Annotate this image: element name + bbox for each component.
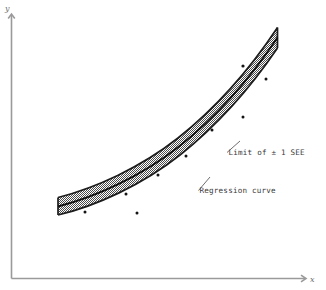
limit-annotation-label: Limit of ± 1 SEE xyxy=(229,148,306,157)
x-axis-label: x xyxy=(310,275,315,284)
data-point xyxy=(84,211,87,214)
data-point xyxy=(265,78,268,81)
data-point xyxy=(211,129,214,132)
data-point xyxy=(157,174,160,177)
data-point xyxy=(241,64,244,67)
data-point xyxy=(242,116,245,119)
regression-annotation-label: Regression curve xyxy=(200,186,277,195)
data-point xyxy=(136,212,139,215)
regression-band-figure: y x Limit of ± 1 SEE Regression curve xyxy=(0,0,326,290)
y-axis-label: y xyxy=(4,4,10,13)
data-point xyxy=(185,155,188,158)
data-point xyxy=(125,193,128,196)
